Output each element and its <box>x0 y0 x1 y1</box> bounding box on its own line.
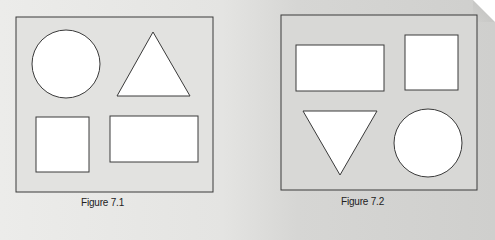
rectangle-shape <box>110 116 198 162</box>
figure-7-2 <box>281 15 477 190</box>
figure-7-1-caption: Figure 7.1 <box>81 197 124 208</box>
circle-shape <box>32 30 100 98</box>
square-shape <box>405 35 458 90</box>
figures-canvas <box>0 0 495 214</box>
circle-shape <box>394 109 462 177</box>
figure-7-2-caption: Figure 7.2 <box>341 196 384 207</box>
rectangle-shape <box>296 45 384 91</box>
figure-7-1 <box>16 17 213 192</box>
square-shape <box>36 117 89 172</box>
